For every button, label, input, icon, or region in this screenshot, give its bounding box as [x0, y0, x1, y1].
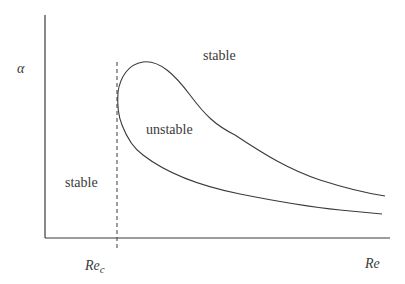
region-label-unstable: unstable	[146, 122, 193, 137]
lower-branch-curve	[118, 92, 382, 214]
critical-re-label: Rec	[84, 258, 105, 275]
y-axis-label: α	[17, 61, 25, 76]
stability-diagram: α stable unstable stable Rec Re	[0, 0, 405, 284]
region-label-stable-top: stable	[203, 48, 236, 63]
region-label-stable-left: stable	[65, 175, 98, 190]
x-axis-label: Re	[364, 256, 380, 271]
